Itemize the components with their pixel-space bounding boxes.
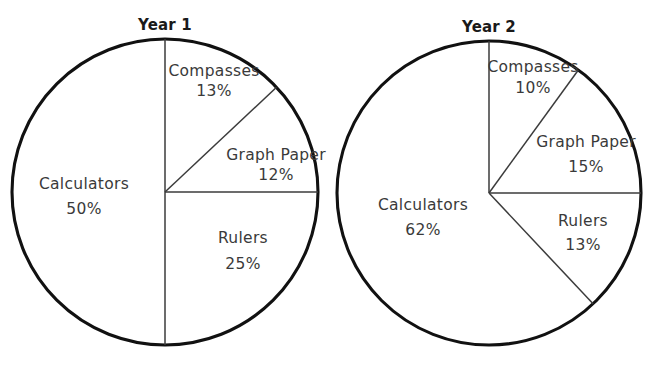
slice-label-calculators: Calculators xyxy=(39,175,129,193)
pie-chart-canvas: Compasses13%Graph Paper12%Rulers25%Calcu… xyxy=(0,0,651,365)
slice-value-rulers: 25% xyxy=(225,255,260,273)
slice-label-rulers: Rulers xyxy=(218,229,268,247)
slice-label-compasses: Compasses xyxy=(487,58,578,76)
slice-label-graph-paper: Graph Paper xyxy=(226,146,326,164)
slice-label-compasses: Compasses xyxy=(168,62,259,80)
pie-chart-2: Compasses10%Graph Paper15%Rulers13%Calcu… xyxy=(337,18,641,345)
pie-chart-figure: Compasses13%Graph Paper12%Rulers25%Calcu… xyxy=(0,0,651,365)
slice-value-rulers: 13% xyxy=(565,236,600,254)
slice-value-compasses: 13% xyxy=(196,82,231,100)
pie-chart-1: Compasses13%Graph Paper12%Rulers25%Calcu… xyxy=(12,16,326,345)
slice-value-graph-paper: 15% xyxy=(568,158,603,176)
slice-value-calculators: 50% xyxy=(66,200,101,218)
slice-label-calculators: Calculators xyxy=(378,196,468,214)
slice-label-rulers: Rulers xyxy=(558,212,608,230)
chart-title-2: Year 2 xyxy=(461,18,516,36)
slice-value-compasses: 10% xyxy=(515,79,550,97)
slice-value-calculators: 62% xyxy=(405,221,440,239)
chart-title-1: Year 1 xyxy=(137,16,192,34)
slice-value-graph-paper: 12% xyxy=(258,166,293,184)
slice-label-graph-paper: Graph Paper xyxy=(536,133,636,151)
